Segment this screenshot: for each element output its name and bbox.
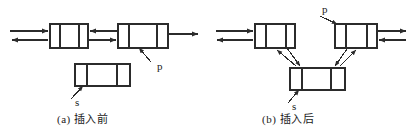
linked-list-insertion-figure: p s p s (a) 插入前 (b) 插入后 xyxy=(0,0,410,134)
panel-a-pointer-label-p: p xyxy=(157,60,163,72)
panel-b-link-s-to-p xyxy=(340,50,356,66)
panel-b-pointer-p-leader xyxy=(320,16,337,24)
panel-a-node-s xyxy=(75,64,130,86)
panel-b-caption: (b) 插入后 xyxy=(262,110,314,126)
panel-b-link-s-to-prev xyxy=(277,50,296,66)
panel-b-node-s xyxy=(290,68,345,90)
panel-b-node-prev xyxy=(255,24,295,48)
panel-a-caption: (a) 插入前 xyxy=(57,110,108,126)
panel-a-node-p xyxy=(118,24,168,48)
panel-a-pointer-p-leader xyxy=(139,48,151,62)
panel-b-right-links xyxy=(377,31,406,40)
panel-a-node-prev xyxy=(50,24,88,48)
panel-b-pointer-label-p: p xyxy=(322,3,328,15)
panel-a-middle-links xyxy=(88,31,118,40)
panel-b-node-p xyxy=(335,24,377,48)
panel-b-link-p-to-s xyxy=(335,49,347,66)
panel-a-left-links xyxy=(10,31,48,40)
panel-a-pointer-label-s: s xyxy=(75,96,79,108)
panel-b-left-links xyxy=(216,31,253,40)
